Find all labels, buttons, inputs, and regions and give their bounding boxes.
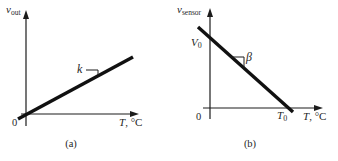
panel-a-x-axis-unit: , °C bbox=[125, 116, 142, 128]
panel-b-response-line bbox=[198, 27, 293, 112]
panel-b-slope-label: β bbox=[246, 51, 252, 63]
panel-a-slope-label: k bbox=[77, 63, 82, 75]
panel-b-y-intercept-label: V0 bbox=[191, 37, 202, 48]
panel-a-response-line bbox=[18, 57, 133, 119]
panel-b-axes bbox=[203, 8, 323, 119]
two-panel-line-figure: vout k 0 T, °C (a) vsensor V0 β 0 T0 T, … bbox=[0, 0, 338, 161]
panel-b-x-axis-unit: , °C bbox=[309, 110, 326, 122]
panel-b-x-axis-label: T, °C bbox=[303, 111, 326, 122]
panel-b-y-axis-subscript: sensor bbox=[182, 8, 201, 17]
panel-b-caption: (b) bbox=[244, 139, 256, 150]
panel-a-slope-marker bbox=[86, 70, 98, 75]
panel-b-origin-label: 0 bbox=[196, 112, 201, 123]
panel-b-y-axis-arrowhead-icon bbox=[207, 8, 213, 17]
panel-a-y-axis-arrowhead-icon bbox=[23, 10, 29, 19]
panel-b-y-axis-label: vsensor bbox=[177, 4, 201, 15]
panel-a-x-axis-label: T, °C bbox=[119, 117, 142, 128]
panel-b-y-intercept-variable: V bbox=[191, 36, 198, 48]
figure-linework bbox=[0, 0, 338, 161]
panel-b-x-intercept-label: T0 bbox=[277, 110, 287, 121]
panel-a-origin-label: 0 bbox=[12, 118, 17, 129]
panel-a-y-axis-subscript: out bbox=[11, 8, 21, 17]
panel-b-x-intercept-subscript: 0 bbox=[283, 114, 287, 123]
panel-a-caption: (a) bbox=[65, 139, 77, 150]
panel-a-y-axis-label: vout bbox=[6, 4, 20, 15]
panel-b-y-intercept-subscript: 0 bbox=[198, 41, 202, 50]
